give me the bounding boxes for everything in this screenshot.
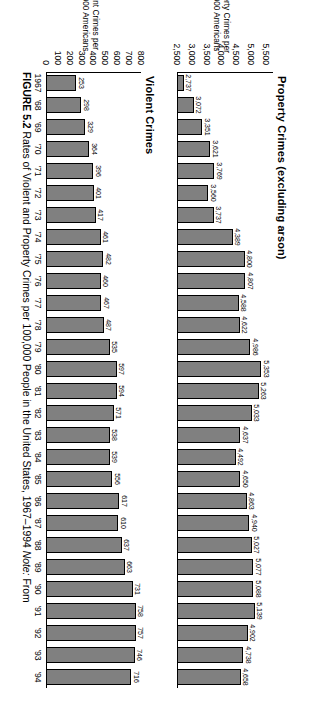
bar-slot: 538 bbox=[46, 424, 141, 446]
bar-slot: 4,940 bbox=[177, 512, 273, 534]
bar-value-label: 637 bbox=[123, 539, 130, 551]
bar-value-label: 487 bbox=[105, 319, 112, 331]
violent-crimes-plot: 2532983293643964014174614824604674875355… bbox=[46, 72, 141, 688]
bar bbox=[177, 295, 239, 311]
bar-slot: 364 bbox=[46, 138, 141, 160]
bar-value-label: 364 bbox=[91, 143, 98, 155]
figure-caption-label: FIGURE 5.2 bbox=[21, 72, 32, 129]
bar bbox=[46, 427, 110, 443]
violent-crimes-y-axis bbox=[46, 72, 141, 73]
bar-value-label: 663 bbox=[126, 561, 133, 573]
bar-slot: 731 bbox=[46, 578, 141, 600]
property-crimes-x-axis bbox=[177, 72, 178, 688]
x-axis-tick-label: '82 bbox=[33, 407, 43, 418]
bar bbox=[46, 207, 96, 223]
bar-value-label: 4,637 bbox=[242, 426, 249, 444]
bar-slot: 757 bbox=[46, 622, 141, 644]
bar bbox=[177, 669, 241, 685]
property-crimes-chart: Property Crimes (excluding arson) Proper… bbox=[161, 0, 291, 710]
bar bbox=[177, 251, 245, 267]
y-axis-tick-label: 500 bbox=[100, 51, 110, 65]
y-axis-tick-label: 200 bbox=[65, 51, 75, 65]
bar bbox=[177, 119, 202, 135]
violent-crimes-bars: 2532983293643964014174614824604674875355… bbox=[46, 72, 141, 688]
x-axis-tick-label: '68 bbox=[33, 99, 43, 110]
bar-value-label: 329 bbox=[87, 121, 94, 133]
bar-slot: 4,637 bbox=[177, 424, 273, 446]
bar-value-label: 4,902 bbox=[249, 624, 256, 642]
bar-value-label: 2,737 bbox=[186, 74, 193, 92]
bar bbox=[46, 405, 114, 421]
bar-slot: 298 bbox=[46, 94, 141, 116]
bar-slot: 3,072 bbox=[177, 94, 273, 116]
bar bbox=[46, 141, 89, 157]
bar-value-label: 5,027 bbox=[253, 536, 260, 554]
bar-value-label: 4,986 bbox=[252, 338, 259, 356]
bar bbox=[46, 559, 125, 575]
bar-slot: 4,800 bbox=[177, 248, 273, 270]
bar-slot: 401 bbox=[46, 182, 141, 204]
x-axis-tick-label: '78 bbox=[33, 319, 43, 330]
bar bbox=[177, 581, 253, 597]
figure-caption: FIGURE 5.2 Rates of Violent and Property… bbox=[20, 72, 33, 702]
x-axis-tick-label: '76 bbox=[33, 275, 43, 286]
bar-value-label: 617 bbox=[121, 495, 128, 507]
bar-value-label: 758 bbox=[138, 605, 145, 617]
x-axis-tick-label: '92 bbox=[33, 627, 43, 638]
bar-slot: 4,622 bbox=[177, 314, 273, 336]
bar-slot: 556 bbox=[46, 468, 141, 490]
bar-slot: 597 bbox=[46, 358, 141, 380]
bar-slot: 617 bbox=[46, 490, 141, 512]
bar-slot: 3,621 bbox=[177, 138, 273, 160]
bar-slot: 594 bbox=[46, 380, 141, 402]
bar-value-label: 4,389 bbox=[234, 228, 241, 246]
bar bbox=[46, 537, 122, 553]
bar-value-label: 3,737 bbox=[215, 206, 222, 224]
bar bbox=[177, 625, 248, 641]
bar bbox=[46, 515, 118, 531]
bar-slot: 4,986 bbox=[177, 336, 273, 358]
x-axis-tick-label: '72 bbox=[33, 187, 43, 198]
bar-value-label: 716 bbox=[133, 671, 140, 683]
bar-value-label: 731 bbox=[134, 583, 141, 595]
violent-crimes-x-axis bbox=[46, 72, 47, 688]
bar-value-label: 460 bbox=[102, 275, 109, 287]
bar-value-label: 3,621 bbox=[212, 140, 219, 158]
bar bbox=[177, 449, 236, 465]
bar-slot: 487 bbox=[46, 314, 141, 336]
bar-slot: 758 bbox=[46, 600, 141, 622]
bar-slot: 4,650 bbox=[177, 468, 273, 490]
x-axis-tick-label: '86 bbox=[33, 495, 43, 506]
x-axis-tick-label: '84 bbox=[33, 451, 43, 462]
bar-slot: 4,658 bbox=[177, 666, 273, 688]
bar-value-label: 5,088 bbox=[255, 580, 262, 598]
bar bbox=[46, 317, 104, 333]
bar-slot: 539 bbox=[46, 446, 141, 468]
bar-value-label: 571 bbox=[115, 407, 122, 419]
bar bbox=[46, 603, 136, 619]
y-axis-tick-label: 4,000 bbox=[216, 43, 226, 65]
y-axis-tick-label: 800 bbox=[136, 51, 146, 65]
x-axis-tick-label: '88 bbox=[33, 539, 43, 550]
bar-slot: 746 bbox=[46, 644, 141, 666]
x-axis-tick-label: '93 bbox=[33, 649, 43, 660]
bar-slot: 467 bbox=[46, 292, 141, 314]
bar-slot: 5,033 bbox=[177, 402, 273, 424]
y-axis-tick-label: 5,000 bbox=[246, 43, 256, 65]
bar bbox=[177, 317, 240, 333]
bar bbox=[46, 647, 135, 663]
bar-value-label: 401 bbox=[95, 187, 102, 199]
bar-slot: 4,492 bbox=[177, 446, 273, 468]
bar-value-label: 5,139 bbox=[256, 602, 263, 620]
x-axis-tick-label: '85 bbox=[33, 473, 43, 484]
property-crimes-bars: 2,7373,0723,3513,6213,7693,5603,7374,389… bbox=[177, 72, 273, 688]
bar-value-label: 5,033 bbox=[253, 404, 260, 422]
bar-value-label: 3,769 bbox=[216, 162, 223, 180]
bar-value-label: 4,940 bbox=[251, 514, 258, 532]
bar-slot: 637 bbox=[46, 534, 141, 556]
bar bbox=[46, 97, 81, 113]
bar-slot: 3,737 bbox=[177, 204, 273, 226]
bar-value-label: 5,077 bbox=[255, 558, 262, 576]
x-axis-tick-label: '80 bbox=[33, 363, 43, 374]
bar-value-label: 3,351 bbox=[204, 118, 211, 136]
